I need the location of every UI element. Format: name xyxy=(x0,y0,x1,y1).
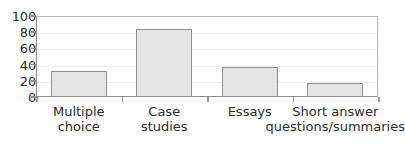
x-tick-mark xyxy=(36,97,38,102)
x-tick-mark xyxy=(207,97,209,102)
bar xyxy=(136,29,192,97)
y-axis: 020406080100 xyxy=(0,0,36,144)
bar xyxy=(222,67,278,97)
x-tick-label: Multiplechoice xyxy=(53,104,105,134)
x-tick-mark xyxy=(378,97,380,102)
bars-layer xyxy=(36,16,378,97)
x-tick-label-line: questions/summaries xyxy=(266,119,405,134)
x-tick-label-line: Short answer xyxy=(266,104,405,119)
x-tick-label-line: Multiple xyxy=(53,104,105,119)
x-tick-label-line: choice xyxy=(53,119,105,134)
x-tick-label-line: Case xyxy=(141,104,188,119)
bar xyxy=(51,71,107,97)
x-tick-mark xyxy=(293,97,295,102)
x-tick-label: Short answerquestions/summaries xyxy=(266,104,405,134)
x-tick-label: Casestudies xyxy=(141,104,188,134)
bar xyxy=(307,83,363,97)
x-tick-mark xyxy=(122,97,124,102)
x-tick-label-line: studies xyxy=(141,119,188,134)
